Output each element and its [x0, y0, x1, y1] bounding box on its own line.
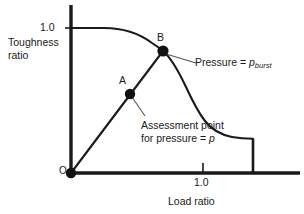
- burst-annotation-prefix: Pressure =: [195, 56, 249, 68]
- marker-point-a: [125, 89, 135, 99]
- marker-origin: [66, 168, 76, 178]
- x-axis-label: Load ratio: [168, 195, 215, 207]
- x-tick-label-1: 1.0: [194, 176, 209, 188]
- point-a-label: A: [119, 74, 126, 86]
- assessment-annotation-symbol: p: [209, 132, 215, 144]
- assessment-annotation-line1: Assessment point: [141, 119, 224, 131]
- assessment-point-annotation: Assessment pointfor pressure = p: [141, 119, 224, 145]
- marker-point-b: [157, 45, 168, 56]
- burst-pressure-annotation: Pressure = pburst: [195, 56, 272, 72]
- y-axis-label: Toughnessratio: [8, 36, 59, 62]
- loading-path-line: [71, 51, 163, 173]
- burst-annotation-subscript: burst: [255, 61, 272, 70]
- point-b-label: B: [157, 31, 164, 43]
- assessment-annotation-line2-prefix: for pressure =: [141, 132, 209, 144]
- leader-line-a: [132, 97, 145, 116]
- y-tick-label-1: 1.0: [40, 21, 55, 33]
- origin-label: O: [59, 165, 67, 177]
- y-axis-label-line1: Toughness: [8, 36, 59, 48]
- failure-assessment-diagram: Toughnessratio 1.0 Load ratio 1.0 O A B …: [0, 0, 304, 214]
- y-axis-label-line2: ratio: [8, 49, 28, 61]
